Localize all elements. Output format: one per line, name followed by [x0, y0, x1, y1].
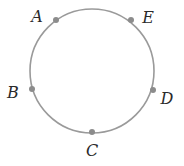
point-label-a: A: [31, 9, 43, 25]
point-dot-e: [128, 17, 134, 23]
point-dot-c: [89, 129, 95, 135]
point-label-e: E: [142, 10, 154, 26]
point-label-d: D: [161, 91, 174, 107]
point-dot-b: [29, 86, 35, 92]
point-dot-a: [53, 17, 59, 23]
circle: [30, 9, 154, 133]
point-label-b: B: [7, 85, 19, 101]
points-layer: [29, 17, 156, 135]
circle-diagram: A E B D C: [0, 0, 184, 166]
point-label-c: C: [86, 143, 98, 159]
point-dot-d: [150, 87, 156, 93]
